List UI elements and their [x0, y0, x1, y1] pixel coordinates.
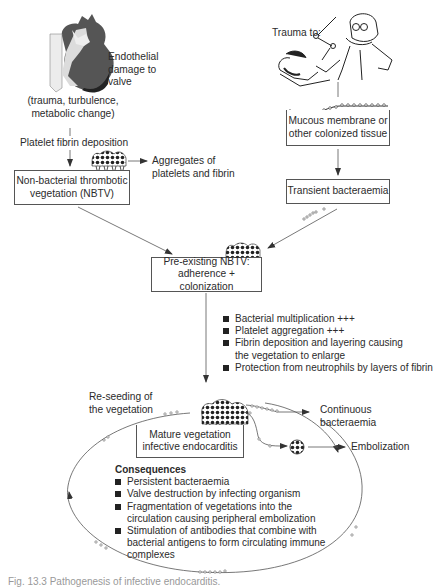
box-line: adherence + colonization	[152, 268, 261, 293]
label-line: bacteraemia	[320, 417, 376, 430]
consequence-item: Fragmentation of vegetations into the	[115, 501, 325, 513]
label-line: valve	[108, 76, 158, 89]
box-line: Pre-existing NBTV:	[152, 256, 261, 269]
consequence-item: Persistent bacteraemia	[115, 476, 325, 488]
heart-icon	[50, 14, 114, 92]
growth-factor-item: Bacterial multiplication +++	[223, 313, 433, 325]
growth-factor-item: Fibrin deposition and layering causing	[223, 337, 433, 349]
consequence-item-continued: complexes	[115, 549, 325, 561]
consequences-list: Consequences Persistent bacteraemia Valv…	[115, 464, 325, 562]
label-line: the vegetation	[89, 404, 153, 417]
label-line: Continuous	[320, 404, 376, 417]
growth-factor-item: Protection from neutrophils by layers of…	[223, 362, 433, 374]
box-line: Mature vegetation	[137, 429, 243, 442]
embolus-icon	[290, 440, 304, 454]
preexisting-nbtv-box: Pre-existing NBTV: adherence + colonizat…	[151, 257, 262, 292]
box-line: vegetation (NBTV)	[15, 188, 129, 201]
consequence-item: Stimulation of antibodies that combine w…	[115, 525, 325, 537]
label-line: Re-seeding of	[89, 391, 153, 404]
consequences-title: Consequences	[115, 464, 325, 476]
bacteria-cluster-icon	[303, 208, 325, 220]
consequence-item: Valve destruction by infecting organism	[115, 488, 325, 500]
label-line: (trauma, turbulence,	[18, 95, 128, 108]
aggregates-label: Aggregates of platelets and fibrin	[152, 155, 235, 180]
growth-factor-item-continued: the vegetation to enlarge	[223, 350, 433, 362]
dentist-illustration-icon	[279, 14, 392, 86]
label-line: Endothelial	[108, 51, 158, 64]
trauma-label: Trauma to:	[272, 27, 321, 40]
box-line: Mucous membrane or	[287, 115, 389, 128]
growth-factors-list: Bacterial multiplication +++ Platelet ag…	[223, 313, 433, 374]
consequence-item-continued: bacterial antigens to form circulating i…	[115, 537, 325, 549]
box-line: Non-bacterial thrombotic	[15, 175, 129, 188]
embolization-label: Embolization	[351, 441, 409, 454]
platelet-fibrin-deposition-label: Platelet fibrin deposition	[20, 137, 128, 150]
label-line: metabolic change)	[18, 108, 128, 121]
consequence-item-continued: circulation causing peripheral embolizat…	[115, 513, 325, 525]
nbtv-box: Non-bacterial thrombotic vegetation (NBT…	[14, 170, 130, 205]
damage-causes-label: (trauma, turbulence, metabolic change)	[18, 95, 128, 120]
continuous-bacteraemia-label: Continuous bacteraemia	[320, 404, 376, 429]
growth-factor-item: Platelet aggregation +++	[223, 325, 433, 337]
box-line: other colonized tissue	[287, 128, 389, 141]
mucous-membrane-box: Mucous membrane or other colonized tissu…	[286, 110, 390, 146]
mature-vegetation-box: Mature vegetation infective endocarditis	[136, 425, 244, 458]
label-line: damage to	[108, 64, 158, 77]
endothelial-damage-label: Endothelial damage to valve	[108, 51, 158, 89]
figure-caption: Fig. 13.3 Pathogenesis of infective endo…	[8, 576, 220, 587]
transient-bacteraemia-box: Transient bacteraemia	[286, 179, 390, 204]
label-line: Aggregates of	[152, 155, 235, 168]
reseeding-label: Re-seeding of the vegetation	[89, 391, 153, 416]
label-line: platelets and fibrin	[152, 168, 235, 181]
box-line: infective endocarditis	[137, 441, 243, 454]
